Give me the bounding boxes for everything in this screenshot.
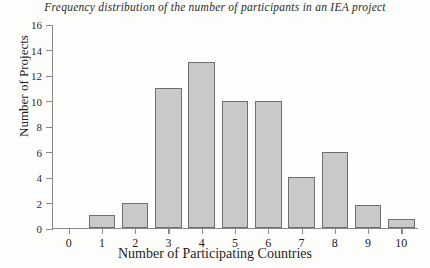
y-tick: 10: [18, 96, 62, 108]
y-tick-mark: [46, 178, 53, 179]
y-tick: 12: [18, 70, 62, 82]
y-tick: 16: [18, 19, 62, 31]
x-tick-mark: [368, 229, 369, 234]
y-tick: 8: [18, 121, 62, 133]
y-tick-label: 10: [18, 96, 42, 108]
bar: [222, 101, 249, 229]
bar: [188, 62, 215, 228]
x-tick-mark: [335, 229, 336, 234]
y-tick-mark: [46, 152, 53, 153]
x-tick-mark: [302, 229, 303, 234]
bar: [355, 205, 382, 228]
bar: [255, 101, 282, 229]
x-tick-mark: [102, 229, 103, 234]
chart-title: Frequency distribution of the number of …: [0, 1, 430, 13]
y-tick-mark: [46, 101, 53, 102]
x-tick-mark: [401, 229, 402, 234]
bar: [388, 219, 415, 228]
y-tick: 0: [18, 223, 62, 235]
bar: [288, 177, 315, 228]
bar: [89, 215, 116, 228]
x-tick-mark: [202, 229, 203, 234]
x-axis-title: Number of Participating Countries: [0, 246, 430, 262]
y-tick-mark: [46, 127, 53, 128]
y-tick-mark: [46, 25, 53, 26]
y-tick-label: 4: [18, 172, 42, 184]
y-tick: 2: [18, 198, 62, 210]
y-tick-label: 14: [18, 45, 42, 57]
x-tick-mark: [268, 229, 269, 234]
y-tick: 6: [18, 147, 62, 159]
bar: [322, 152, 349, 229]
bar: [155, 88, 182, 228]
x-tick-mark: [69, 229, 70, 234]
x-tick-mark: [168, 229, 169, 234]
y-tick-label: 0: [18, 223, 42, 235]
bar: [122, 203, 149, 229]
y-tick-label: 16: [18, 19, 42, 31]
y-tick-mark: [46, 203, 53, 204]
y-tick-label: 2: [18, 198, 42, 210]
y-tick-mark: [46, 229, 53, 230]
x-tick-mark: [135, 229, 136, 234]
y-tick-label: 6: [18, 147, 42, 159]
y-tick-mark: [46, 50, 53, 51]
y-tick-label: 8: [18, 121, 42, 133]
y-tick: 14: [18, 45, 62, 57]
y-axis-title: Number of Projects: [16, 16, 32, 156]
y-tick-label: 12: [18, 70, 42, 82]
chart-screenshot: Frequency distribution of the number of …: [0, 0, 430, 268]
y-tick: 4: [18, 172, 62, 184]
x-tick-mark: [235, 229, 236, 234]
y-tick-mark: [46, 76, 53, 77]
plot-area: 0246810121416 012345678910: [52, 25, 418, 229]
